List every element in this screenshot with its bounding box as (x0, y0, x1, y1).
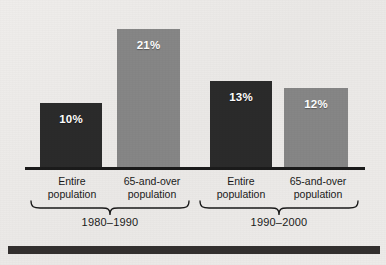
group-label-1990-2000: 1990–2000 (197, 216, 361, 228)
tick-label-line1: 65-and-over (106, 175, 198, 188)
group-label-1980-1990: 1980–1990 (28, 216, 192, 228)
bar-value-label: 13% (210, 91, 272, 103)
bar-value-label: 10% (40, 113, 102, 125)
chart-figure: 10% 21% 13% 12% Entire population 65-and… (0, 0, 386, 265)
tick-label-line1: 65-and-over (272, 175, 364, 188)
bar-group2-entire-population: 13% (210, 81, 272, 167)
group-brace-1980-1990 (28, 200, 192, 216)
plot-area: 10% 21% 13% 12% Entire population 65-and… (0, 0, 386, 265)
bar-group1-65-and-over-population: 21% (117, 29, 180, 167)
tick-label-line1: Entire (26, 175, 118, 188)
tick-label-line2: population (106, 188, 198, 201)
bar-group2-65-and-over-population: 12% (284, 88, 348, 167)
bar-group1-entire-population: 10% (40, 103, 102, 167)
brace-shape-icon (28, 200, 192, 216)
tick-label-group2-65-and-over-population: 65-and-over population (272, 175, 364, 200)
bar-value-label: 12% (284, 98, 348, 110)
brace-shape-icon (197, 200, 361, 216)
group-brace-1990-2000 (197, 200, 361, 216)
bar-value-label: 21% (117, 39, 180, 51)
tick-label-group1-65-and-over-population: 65-and-over population (106, 175, 198, 200)
tick-label-line2: population (272, 188, 364, 201)
bottom-divider-rule (8, 246, 380, 254)
tick-label-group1-entire-population: Entire population (26, 175, 118, 200)
x-axis-baseline (25, 167, 365, 170)
tick-label-line2: population (26, 188, 118, 201)
